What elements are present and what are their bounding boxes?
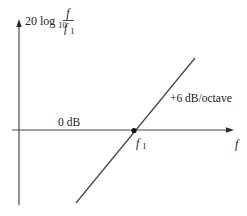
x-axis-arrow-icon	[226, 127, 234, 132]
corner-frequency-point	[131, 128, 136, 133]
x-axis	[12, 127, 234, 132]
svg-text:f 1: f 1	[64, 21, 75, 36]
y-axis	[16, 19, 21, 205]
svg-text:f 1: f 1	[136, 136, 147, 151]
slope-label: +6 dB/octave	[170, 92, 232, 104]
svg-text:20 log 10: 20 log 10	[25, 14, 67, 30]
zero-db-label: 0 dB	[58, 116, 80, 128]
bode-diagram: 20 log 10 f f 1 0 dB +6 dB/octave f 1 f	[0, 0, 247, 216]
y-axis-fraction-denominator-subscript: 1	[70, 26, 74, 36]
x-axis-label: f	[235, 137, 240, 151]
corner-frequency-subscript: 1	[142, 141, 146, 151]
y-axis-label-prefix: 20 log	[25, 14, 55, 28]
y-axis-label: 20 log 10 f f 1	[25, 6, 75, 36]
corner-frequency-label: f	[136, 136, 141, 150]
y-axis-fraction-denominator: f	[64, 21, 69, 35]
y-axis-fraction-numerator: f	[66, 6, 71, 20]
y-axis-arrow-icon	[16, 19, 21, 27]
